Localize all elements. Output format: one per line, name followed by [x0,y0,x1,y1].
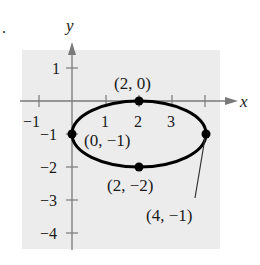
x-axis-arrow-icon [225,97,238,105]
point-label-2-0: (2, 0) [114,74,151,93]
y-tick-label-neg2: −2 [40,159,57,176]
x-tick-label-neg1: −1 [23,113,40,130]
x-tick-label-3: 3 [167,113,175,130]
point-2-0 [135,97,144,106]
y-axis-arrow-icon [68,42,76,55]
y-axis-label: y [64,16,74,35]
y-tick-label-neg4: −4 [40,225,57,242]
x-tick-label-2: 2 [134,113,142,130]
point-2-neg2 [135,163,144,172]
point-label-4-neg1: (4, −1) [146,206,192,225]
point-label-0-neg1: (0, −1) [84,131,130,150]
y-tick-label-neg1: −1 [40,126,57,143]
y-tick-label-1: 1 [52,60,60,77]
point-4-neg1 [202,130,211,139]
x-tick-label-1: 1 [101,113,109,130]
x-axis-label: x [239,92,248,111]
point-label-2-neg2: (2, −2) [107,176,153,195]
ellipse-graph: . x y −1 1 2 3 1 −1 −2 −3 −4 [0,0,260,265]
y-tick-label-neg3: −3 [40,192,57,209]
point-0-neg1 [68,130,77,139]
problem-marker: . [2,19,6,36]
